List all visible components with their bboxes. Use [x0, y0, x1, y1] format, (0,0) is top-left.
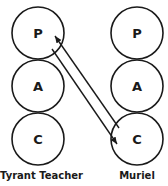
- muriel-parent-label: P: [129, 26, 145, 41]
- tyrant-adult-label: A: [30, 79, 46, 94]
- muriel-adult-label: A: [129, 79, 145, 94]
- muriel-caption: Muriel: [110, 170, 164, 181]
- tyrant-teacher-caption: Tyrant Teacher: [0, 170, 76, 181]
- tyrant-child-label: C: [30, 132, 46, 147]
- muriel-child-label: C: [129, 132, 145, 147]
- arrow-child-to-parent: [55, 36, 119, 128]
- tyrant-parent-label: P: [30, 26, 46, 41]
